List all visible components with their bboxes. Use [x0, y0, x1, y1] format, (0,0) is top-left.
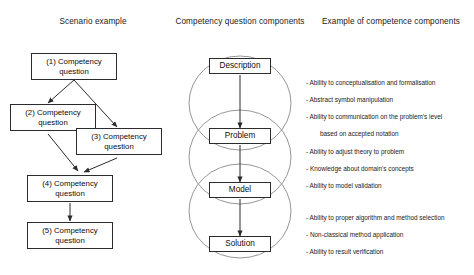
competence-bullet: - Ability to adjust theory to problem: [306, 148, 472, 157]
scenario-node-cq5[interactable]: (5) Competency question: [27, 222, 113, 249]
arrow-cq1-to-cq2: [48, 80, 74, 103]
component-node-solution[interactable]: Solution: [209, 236, 271, 252]
arrow-cq3-to-cq4: [84, 158, 117, 172]
competence-bullet: - Ability to model validation: [306, 182, 472, 191]
competence-bullet: - Ability to conceptualisation and forma…: [306, 79, 472, 88]
component-node-description[interactable]: Description: [209, 58, 271, 74]
column-title-examples: Example of competence components: [312, 16, 470, 27]
arrow-cq2-to-cq4: [48, 134, 78, 171]
competence-group-model-solution: - Ability to proper algorithm and method…: [306, 205, 472, 265]
scenario-node-cq4[interactable]: (4) Competency question: [27, 175, 113, 202]
component-node-problem[interactable]: Problem: [209, 128, 271, 144]
scenario-node-cq3[interactable]: (3) Competency question: [76, 128, 162, 155]
competence-bullet: - Non-classical method application: [306, 231, 472, 240]
competence-bullet: - Ability to result verification: [306, 248, 472, 257]
competence-bullet-continuation: based on accepted notation: [306, 130, 472, 139]
column-title-components: Competency question components: [175, 16, 305, 27]
competence-bullet: - Knowledge about domain's concepts: [306, 165, 472, 174]
competence-bullet: - Ability to communication on the proble…: [306, 113, 472, 122]
competence-bullet: - Ability to proper algorithm and method…: [306, 214, 472, 223]
competence-group-description-problem: - Ability to conceptualisation and forma…: [306, 70, 472, 147]
scenario-node-cq2[interactable]: (2) Competency question: [10, 104, 96, 131]
component-node-model[interactable]: Model: [209, 182, 271, 198]
competence-group-problem-model: - Ability to adjust theory to problem - …: [306, 139, 472, 199]
competence-bullet: - Abstract symbol manipulation: [306, 96, 472, 105]
scenario-node-cq1[interactable]: (1) Competency question: [31, 53, 117, 80]
column-title-scenario: Scenario example: [18, 16, 168, 27]
